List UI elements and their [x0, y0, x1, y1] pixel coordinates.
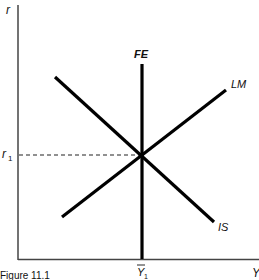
svg-text:1: 1 [8, 154, 13, 163]
lm-label: LM [231, 78, 247, 90]
x-axis-label: Y [252, 266, 259, 280]
y-axis-label: r [6, 3, 11, 17]
is-lm-fe-diagram: r Y FE LM IS r 1 Y 1 Figure 11.1 [0, 0, 259, 280]
lm-curve [62, 90, 226, 217]
svg-text:r: r [2, 147, 7, 161]
y-bar-1-label: Y 1 [137, 265, 148, 280]
fe-label: FE [134, 48, 149, 60]
figure-caption: Figure 11.1 [0, 270, 50, 280]
svg-text:1: 1 [144, 273, 148, 280]
r1-label: r 1 [2, 147, 13, 163]
is-label: IS [218, 221, 229, 233]
is-curve [55, 77, 214, 222]
